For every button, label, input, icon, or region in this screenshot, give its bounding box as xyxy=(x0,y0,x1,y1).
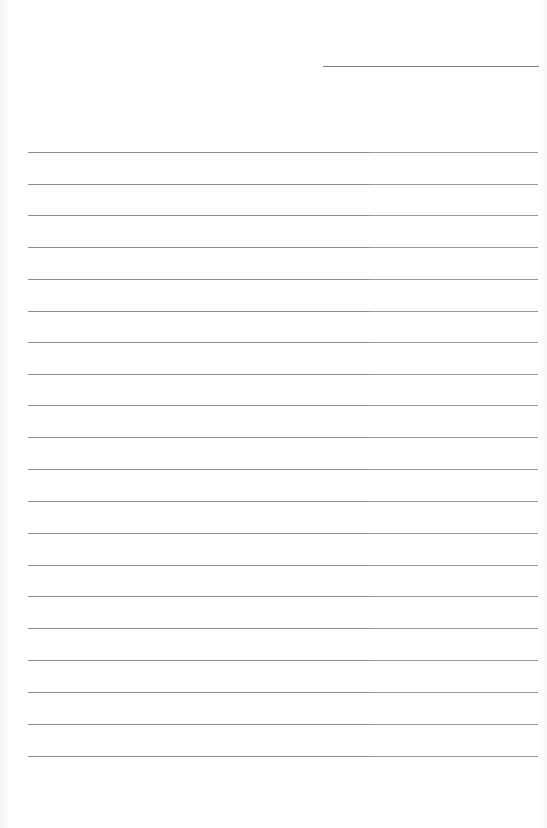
ruled-line[interactable] xyxy=(28,437,538,438)
ruled-line-right-segment xyxy=(370,215,538,216)
ruled-line-right-segment xyxy=(370,501,538,502)
ruled-line-right-segment xyxy=(370,756,538,757)
ruled-line-right-segment xyxy=(370,724,538,725)
ruled-line[interactable] xyxy=(28,279,538,280)
ruled-line[interactable] xyxy=(28,533,538,534)
ruled-line[interactable] xyxy=(28,756,538,757)
ruled-line[interactable] xyxy=(28,724,538,725)
ruled-line-right-segment xyxy=(370,437,538,438)
ruled-line[interactable] xyxy=(28,215,538,216)
ruled-line[interactable] xyxy=(28,565,538,566)
ruled-line-right-segment xyxy=(370,184,538,185)
ruled-line[interactable] xyxy=(28,692,538,693)
ruled-line-right-segment xyxy=(370,533,538,534)
ruled-line-right-segment xyxy=(370,342,538,343)
ruled-line[interactable] xyxy=(28,374,538,375)
ruled-line[interactable] xyxy=(28,311,538,312)
ruled-line[interactable] xyxy=(28,501,538,502)
ruled-line-right-segment xyxy=(370,279,538,280)
ruled-line-right-segment xyxy=(370,374,538,375)
ruled-line[interactable] xyxy=(28,247,538,248)
ruled-line-right-segment xyxy=(370,628,538,629)
ruled-line[interactable] xyxy=(28,152,538,153)
ruled-line-right-segment xyxy=(370,405,538,406)
ruled-line[interactable] xyxy=(28,184,538,185)
ruled-line[interactable] xyxy=(28,596,538,597)
ruled-line-right-segment xyxy=(370,596,538,597)
ruled-line-right-segment xyxy=(370,565,538,566)
ruled-line[interactable] xyxy=(28,405,538,406)
ruled-line-right-segment xyxy=(370,469,538,470)
ruled-line-right-segment xyxy=(370,152,538,153)
ruled-line[interactable] xyxy=(28,628,538,629)
ruled-line-right-segment xyxy=(370,692,538,693)
ruled-line-right-segment xyxy=(370,660,538,661)
ruled-line-right-segment xyxy=(370,311,538,312)
ruled-line[interactable] xyxy=(28,660,538,661)
ruled-line[interactable] xyxy=(28,342,538,343)
lined-page xyxy=(0,0,547,828)
ruled-line[interactable] xyxy=(28,469,538,470)
date-line[interactable] xyxy=(323,66,539,67)
ruled-line-right-segment xyxy=(370,247,538,248)
